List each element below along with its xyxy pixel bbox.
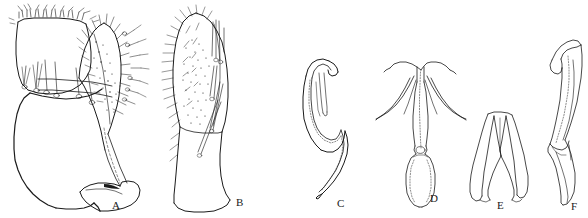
panel-label-a: A	[112, 200, 120, 211]
panel-e-drawing	[470, 112, 528, 202]
panel-a-stipple	[93, 41, 116, 112]
panel-label-e: E	[497, 200, 504, 211]
panel-c-drawing	[303, 59, 348, 199]
plate-drawing	[0, 0, 588, 218]
panel-b-drawing	[162, 5, 230, 212]
figure-plate: A B C D E F	[0, 0, 588, 218]
panel-a-gonostylus-setae	[77, 14, 149, 114]
panel-d-drawing	[376, 62, 466, 207]
panel-label-b: B	[236, 197, 243, 208]
panel-label-f: F	[571, 201, 577, 212]
panel-f-drawing	[548, 40, 582, 205]
panel-b-spines	[197, 20, 224, 157]
panel-label-d: D	[430, 193, 438, 204]
panel-label-c: C	[337, 198, 344, 209]
panel-b-stipple	[182, 39, 209, 124]
panel-b-setae	[162, 5, 212, 161]
panel-a-drawing	[9, 4, 149, 211]
